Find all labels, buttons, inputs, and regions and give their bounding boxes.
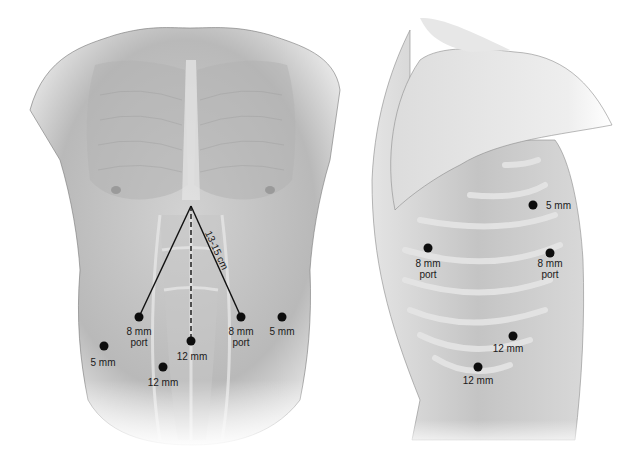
label-size: 12 mm xyxy=(148,377,179,388)
label-size: 12 mm xyxy=(493,343,524,354)
label-left-8mm: 8 mm port xyxy=(127,326,152,348)
port-dot-right-8mm xyxy=(237,313,246,322)
port-dot-upper-5mm xyxy=(529,201,538,210)
label-left-5mm: 5 mm xyxy=(91,357,116,368)
label-size: 8 mm xyxy=(229,326,254,337)
port-dot-left-8mm xyxy=(135,313,144,322)
label-type: port xyxy=(538,269,563,280)
label-posterior-8mm: 8 mm port xyxy=(538,258,563,280)
port-dot-center-12mm xyxy=(187,337,196,346)
label-lower-12mm-lateral: 12 mm xyxy=(463,375,494,386)
label-upper-12mm: 12 mm xyxy=(493,343,524,354)
anterior-torso xyxy=(30,28,340,450)
label-type: port xyxy=(127,337,152,348)
torso-illustrations xyxy=(0,0,624,469)
label-size: 8 mm xyxy=(538,258,563,269)
port-dot-right-5mm xyxy=(278,313,287,322)
label-type: port xyxy=(229,337,254,348)
port-dot-anterior-8mm xyxy=(424,244,433,253)
port-dot-posterior-8mm xyxy=(546,249,555,258)
label-size: 5 mm xyxy=(91,357,116,368)
port-dot-left-5mm xyxy=(100,342,109,351)
label-size: 12 mm xyxy=(463,375,494,386)
label-right-8mm: 8 mm port xyxy=(229,326,254,348)
label-anterior-8mm: 8 mm port xyxy=(416,258,441,280)
label-size: 8 mm xyxy=(127,326,152,337)
port-dot-lower-12mm-lateral xyxy=(474,363,483,372)
label-center-12mm: 12 mm xyxy=(177,351,208,362)
port-dot-upper-12mm xyxy=(509,332,518,341)
label-size: 8 mm xyxy=(416,258,441,269)
label-upper-5mm: 5 mm xyxy=(546,200,571,211)
port-dot-lower-12mm xyxy=(159,363,168,372)
label-size: 5 mm xyxy=(546,200,571,211)
label-size: 12 mm xyxy=(177,351,208,362)
port-placement-figure: 13-15 cm 8 mm port 8 mm port 12 mm 5 mm … xyxy=(0,0,624,469)
label-type: port xyxy=(416,269,441,280)
label-right-5mm: 5 mm xyxy=(270,326,295,337)
label-lower-12mm: 12 mm xyxy=(148,377,179,388)
label-size: 5 mm xyxy=(270,326,295,337)
